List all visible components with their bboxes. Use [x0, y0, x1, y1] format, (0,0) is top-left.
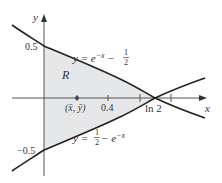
svg-text:1: 1 — [95, 128, 99, 137]
svg-text:2: 2 — [95, 138, 99, 147]
y-axis-arrow-icon — [41, 14, 47, 22]
x-axis-arrow-icon — [199, 95, 207, 101]
tick-label-ln2: ln 2 — [145, 102, 162, 114]
svg-text:1: 1 — [124, 48, 128, 57]
svg-text:− e−x: − e−x — [101, 131, 125, 144]
region-diagram: y x 0.5 −0.5 0.4 ln 2 R (x̄, ȳ) y = e−x … — [0, 0, 222, 183]
centroid-point — [75, 96, 79, 100]
centroid-label: (x̄, ȳ) — [65, 102, 86, 114]
region-label: R — [61, 68, 70, 82]
y-axis-label: y — [32, 11, 38, 23]
tick-label-neg-0.5: −0.5 — [17, 145, 35, 156]
tick-label-0.5: 0.5 — [25, 41, 38, 52]
svg-text:2: 2 — [124, 58, 128, 67]
x-axis-label: x — [204, 102, 210, 114]
tick-label-0.4: 0.4 — [101, 102, 114, 113]
svg-text:y = e−x −: y = e−x − — [72, 51, 114, 64]
svg-text:y =: y = — [72, 132, 88, 144]
